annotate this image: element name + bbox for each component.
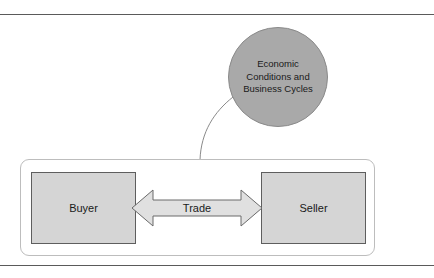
economic-conditions-circle: Economic Conditions and Business Cycles [228,27,328,127]
seller-box: Seller [261,172,366,244]
buyer-box: Buyer [31,172,136,244]
trade-bidirectional-arrow [131,187,263,229]
diagram-canvas: Economic Conditions and Business Cycles … [0,0,434,278]
economic-conditions-label: Economic Conditions and Business Cycles [239,58,317,96]
buyer-label: Buyer [69,202,98,214]
bottom-divider-rule [0,265,434,266]
seller-label: Seller [299,202,327,214]
top-divider-rule [0,14,434,15]
